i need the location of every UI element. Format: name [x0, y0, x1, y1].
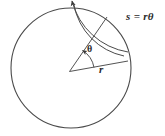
main-circle: [11, 8, 131, 128]
outer-arc-inner-line: [74, 5, 124, 56]
arc-length-equation-label: s = rθ: [126, 11, 154, 22]
arc-length-figure: s = rθ θ r: [0, 0, 165, 136]
angle-theta-label: θ: [87, 44, 92, 54]
radius-label: r: [99, 64, 103, 75]
